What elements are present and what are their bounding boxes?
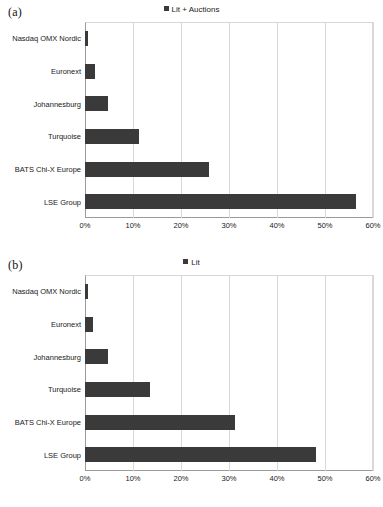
bar-row: Turquoise	[85, 120, 373, 153]
legend-label: Lit + Auctions	[172, 4, 220, 15]
legend-swatch-icon	[164, 6, 169, 11]
bar-row: BATS Chi-X Europe	[85, 153, 373, 186]
x-tick-label: 40%	[269, 474, 284, 483]
legend-b: Lit	[0, 257, 383, 268]
category-label: Nasdaq OMX Nordic	[12, 287, 81, 296]
bar	[85, 31, 88, 46]
bar-row: LSE Group	[85, 185, 373, 218]
bar	[85, 162, 209, 177]
bar	[85, 129, 139, 144]
x-tick-label: 50%	[317, 474, 332, 483]
x-tick-label: 10%	[125, 474, 140, 483]
bar	[85, 415, 235, 430]
category-label: Nasdaq OMX Nordic	[12, 34, 81, 43]
category-label: BATS Chi-X Europe	[15, 165, 81, 174]
x-tick-label: 20%	[173, 474, 188, 483]
bar	[85, 317, 93, 332]
gridline	[373, 275, 374, 471]
chart-panel-b: (b) Lit Nasdaq OMX NordicEuronextJohanne…	[0, 253, 383, 507]
category-label: Turquoise	[48, 132, 81, 141]
x-tick-label: 10%	[125, 221, 140, 230]
bar-row: Nasdaq OMX Nordic	[85, 275, 373, 308]
x-tick-label: 20%	[173, 221, 188, 230]
legend-entry-lit-auctions: Lit + Auctions	[164, 4, 220, 15]
bar-row: Euronext	[85, 55, 373, 88]
x-tick-label: 40%	[269, 221, 284, 230]
category-label: Johannesburg	[33, 99, 81, 108]
bar-row: Euronext	[85, 308, 373, 341]
bar	[85, 64, 95, 79]
x-tick-label: 50%	[317, 221, 332, 230]
bar	[85, 447, 316, 462]
legend-entry-lit: Lit	[183, 257, 199, 268]
bar-row: LSE Group	[85, 438, 373, 471]
x-tick-label: 0%	[80, 221, 91, 230]
x-tick-label: 0%	[80, 474, 91, 483]
plot-area-b: Nasdaq OMX NordicEuronextJohannesburgTur…	[85, 275, 373, 471]
bar	[85, 349, 108, 364]
bar-row: Johannesburg	[85, 87, 373, 120]
category-label: Johannesburg	[33, 352, 81, 361]
plot-area-a: Nasdaq OMX NordicEuronextJohannesburgTur…	[85, 22, 373, 218]
category-label: LSE Group	[44, 197, 81, 206]
x-axis-ticks-b: 0%10%20%30%40%50%60%	[85, 472, 373, 486]
bar-rows-a: Nasdaq OMX NordicEuronextJohannesburgTur…	[85, 22, 373, 218]
bar	[85, 284, 88, 299]
category-label: Euronext	[51, 320, 81, 329]
bar-rows-b: Nasdaq OMX NordicEuronextJohannesburgTur…	[85, 275, 373, 471]
category-label: LSE Group	[44, 450, 81, 459]
bar-row: Turquoise	[85, 373, 373, 406]
legend-swatch-icon	[183, 259, 188, 264]
x-axis-ticks-a: 0%10%20%30%40%50%60%	[85, 219, 373, 233]
x-tick-label: 30%	[221, 474, 236, 483]
category-label: BATS Chi-X Europe	[15, 418, 81, 427]
x-tick-label: 30%	[221, 221, 236, 230]
legend-label: Lit	[191, 257, 199, 268]
category-label: Turquoise	[48, 385, 81, 394]
x-tick-label: 60%	[365, 474, 380, 483]
bar	[85, 194, 356, 209]
x-tick-label: 60%	[365, 221, 380, 230]
gridline	[373, 22, 374, 218]
legend-a: Lit + Auctions	[0, 4, 383, 15]
chart-panel-a: (a) Lit + Auctions Nasdaq OMX NordicEuro…	[0, 0, 383, 253]
bar-row: Johannesburg	[85, 340, 373, 373]
bar	[85, 382, 150, 397]
bar-row: Nasdaq OMX Nordic	[85, 22, 373, 55]
bar	[85, 96, 108, 111]
bar-row: BATS Chi-X Europe	[85, 406, 373, 439]
category-label: Euronext	[51, 67, 81, 76]
